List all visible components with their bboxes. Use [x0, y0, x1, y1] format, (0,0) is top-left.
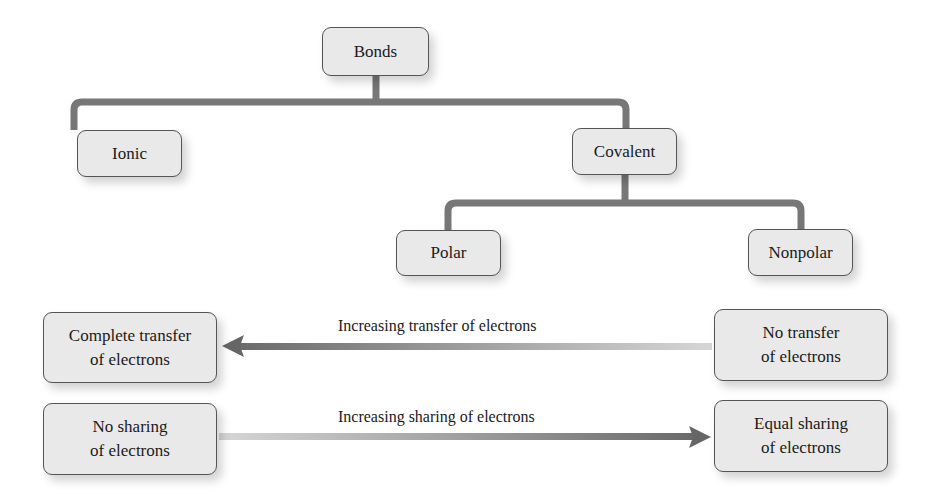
ionic-node: Ionic — [77, 130, 182, 177]
equal-sharing-line1: Equal sharing — [754, 412, 848, 436]
polar-label: Polar — [431, 241, 467, 265]
no-transfer-line2: of electrons — [761, 345, 841, 369]
nonpolar-node: Nonpolar — [748, 229, 853, 276]
no-transfer-line1: No transfer — [763, 321, 840, 345]
no-transfer-box: No transfer of electrons — [714, 309, 888, 381]
no-sharing-line1: No sharing — [92, 415, 167, 439]
top-branch-line — [74, 102, 626, 130]
transfer-arrow-shaft — [238, 343, 712, 350]
complete-transfer-line2: of electrons — [90, 348, 170, 372]
covalent-node: Covalent — [572, 128, 677, 175]
nonpolar-label: Nonpolar — [768, 241, 832, 265]
bonds-node: Bonds — [322, 27, 429, 76]
ionic-label: Ionic — [112, 142, 147, 166]
no-sharing-line2: of electrons — [90, 439, 170, 463]
sharing-arrow-shaft — [219, 433, 693, 440]
complete-transfer-box: Complete transfer of electrons — [43, 312, 217, 383]
no-sharing-box: No sharing of electrons — [43, 403, 217, 475]
covalent-label: Covalent — [594, 140, 655, 164]
equal-sharing-box: Equal sharing of electrons — [714, 400, 888, 472]
sharing-arrow-label: Increasing sharing of electrons — [338, 408, 535, 426]
bonds-label: Bonds — [354, 40, 397, 64]
polar-node: Polar — [396, 230, 501, 276]
equal-sharing-line2: of electrons — [761, 436, 841, 460]
complete-transfer-line1: Complete transfer — [69, 324, 191, 348]
transfer-arrow-label: Increasing transfer of electrons — [338, 317, 537, 335]
covalent-branch-line — [448, 203, 801, 230]
